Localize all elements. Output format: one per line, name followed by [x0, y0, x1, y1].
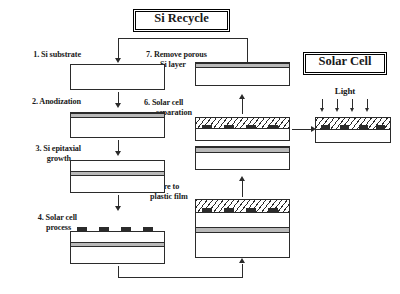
light-arrow-2-head — [335, 108, 339, 112]
step7-substrate-layer — [196, 68, 289, 85]
solar-cell-title-box: Solar Cell — [303, 52, 387, 75]
si-recycle-title: Si Recycle — [134, 10, 229, 27]
step4-wafer-stack — [70, 231, 165, 264]
step6-epitaxial-layer — [196, 129, 289, 140]
solar-cell-title: Solar Cell — [304, 53, 386, 70]
route-step4-to-step5-across — [118, 277, 243, 278]
step5-electrode-2 — [224, 208, 234, 212]
arrow-step6-to-step7-line — [242, 99, 243, 114]
step5-substrate-layer — [196, 233, 289, 257]
arrow-step1-to-step2-head — [115, 103, 121, 108]
step3-wafer-stack — [70, 160, 165, 193]
arrow-step5-to-step6-head — [239, 176, 245, 181]
step5-epitaxial-layer — [196, 213, 289, 227]
step2-label: 2. Anodization — [6, 97, 81, 107]
step2-substrate-layer — [71, 118, 164, 137]
step4-label-line1: 4. Solar cell — [6, 213, 77, 223]
solar-cell-electrode-3 — [359, 125, 368, 129]
route-step4-to-step5-up — [242, 264, 243, 278]
step4-label-line2: process — [6, 223, 71, 233]
route-step4-to-step5-head — [239, 258, 245, 263]
step4-substrate-layer — [71, 247, 164, 263]
step5-electrode-1 — [202, 208, 212, 212]
step4-epitaxial-layer — [71, 232, 164, 242]
step3-label-line2: growth — [6, 154, 71, 164]
step1-wafer-stack — [70, 64, 165, 90]
step1-label: 1. Si substrate — [6, 50, 81, 60]
recycle-line-top-horizontal — [118, 38, 248, 39]
step6-substrate-layer — [196, 153, 289, 169]
light-arrow-3-head — [350, 108, 354, 112]
step6-separated-cell-stack — [195, 117, 290, 141]
recycle-arrowhead-into-step1 — [115, 58, 121, 63]
recycle-line-left-vertical — [118, 38, 119, 59]
arrow-step2-to-step3-head — [115, 151, 121, 156]
arrow-step5-to-step6-line — [242, 181, 243, 197]
recycle-line-right-vertical — [247, 38, 248, 63]
step7-wafer-stack — [195, 62, 290, 86]
light-arrow-4-head — [365, 108, 369, 112]
step6-remaining-substrate-stack — [195, 146, 290, 170]
solar-cell-electrode-1 — [321, 125, 330, 129]
si-recycle-title-box: Si Recycle — [133, 9, 230, 32]
light-label: Light — [305, 86, 385, 96]
step1-substrate-layer — [71, 65, 164, 89]
solar-cell-electrode-2 — [340, 125, 349, 129]
step6-label-line1: 6. Solar cell — [144, 98, 224, 108]
step3-label-line1: 3. Si epitaxial — [6, 144, 81, 154]
step7-label-line1: 7. Remove porous — [146, 50, 231, 60]
step5-electrode-4 — [268, 208, 278, 212]
step3-epitaxial-layer — [71, 161, 164, 171]
step6-electrode-4 — [268, 125, 278, 129]
arrow-step6-to-step7-head — [239, 94, 245, 99]
process-flow-diagram: Si Recycle Solar Cell 1. Si substrate 2.… — [0, 0, 400, 294]
light-arrow-1-head — [320, 108, 324, 112]
solar-cell-device-stack — [315, 117, 391, 143]
step2-wafer-stack — [70, 112, 165, 138]
step6-electrode-3 — [246, 125, 256, 129]
arrow-to-solar-cell-line — [292, 129, 312, 130]
arrow-step3-to-step4-head — [115, 206, 121, 211]
step6-electrode-1 — [202, 125, 212, 129]
solar-cell-electrode-4 — [376, 125, 385, 129]
step6-electrode-2 — [224, 125, 234, 129]
step3-substrate-layer — [71, 176, 164, 192]
solar-cell-epitaxial-layer — [316, 130, 390, 142]
step5-electrode-3 — [246, 208, 256, 212]
